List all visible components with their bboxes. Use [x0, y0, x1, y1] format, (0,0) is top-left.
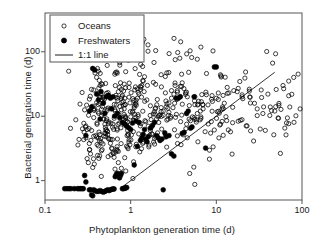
legend-entry-freshwaters: Freshwaters	[78, 35, 130, 46]
legend-entry-1-1-line: 1:1 line	[78, 49, 109, 60]
y-tick-label: 1	[16, 175, 40, 185]
x-tick-label: 0.1	[31, 205, 59, 215]
x-tick-label: 1	[117, 205, 145, 215]
plot-canvas	[0, 0, 324, 238]
legend-entry-oceans: Oceans	[78, 20, 111, 31]
y-tick-label: 10	[16, 110, 40, 120]
x-axis-title: Phytoplankton generation time (d)	[0, 224, 324, 235]
axis-ticks	[41, 52, 302, 204]
y-tick-label: 100	[16, 46, 40, 56]
x-tick-label: 10	[202, 205, 230, 215]
x-tick-label: 100	[288, 205, 316, 215]
scatter-plot-figure: Phytoplankton generation time (d) Bacter…	[0, 0, 324, 238]
